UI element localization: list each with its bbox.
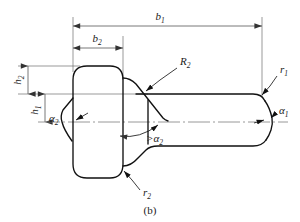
dimension-label-h1: h1 bbox=[28, 105, 43, 114]
annotation-label-r1: r1 bbox=[280, 63, 288, 78]
annotation-label-R2: R2 bbox=[179, 55, 191, 70]
annotation-R2: R2 bbox=[146, 55, 191, 91]
dimension-b2: b2 bbox=[73, 32, 123, 48]
dimension-h1: h1 bbox=[28, 94, 45, 122]
annotation-r2: r2 bbox=[124, 171, 151, 201]
cone-upper-flank bbox=[123, 78, 168, 121]
annotation-alpha2-cone: >α2 bbox=[120, 125, 163, 147]
annotation-label-alpha2-left: α2 bbox=[49, 112, 59, 127]
dimension-b1: b1 bbox=[73, 10, 262, 26]
dimension-label-h2: h2 bbox=[11, 75, 26, 85]
shank-bottom-line bbox=[123, 140, 266, 166]
alpha2-left-leader-line bbox=[76, 113, 88, 120]
annotation-alpha2-left: α2 bbox=[49, 112, 88, 127]
drawing-canvas: b1 b2 h2 h1 bbox=[0, 0, 300, 222]
annotation-r1: r1 bbox=[262, 63, 288, 95]
alpha1-leader-line-2 bbox=[254, 120, 264, 123]
figure-caption: (b) bbox=[144, 204, 157, 217]
r2-leader-line bbox=[124, 171, 140, 190]
R2-leader-line bbox=[146, 68, 177, 91]
r1-leader-line bbox=[262, 76, 277, 95]
dimension-label-b1: b1 bbox=[155, 10, 164, 25]
annotation-label-alpha1: α1 bbox=[279, 104, 289, 119]
left-taper-profile bbox=[61, 98, 73, 141]
dimension-label-b2: b2 bbox=[92, 32, 102, 47]
dimension-h2: h2 bbox=[11, 66, 28, 94]
engineering-figure: b1 b2 h2 h1 bbox=[0, 0, 300, 222]
shank-top-line bbox=[136, 94, 265, 101]
annotation-label-r2: r2 bbox=[143, 186, 151, 201]
projection-lines bbox=[18, 17, 262, 97]
